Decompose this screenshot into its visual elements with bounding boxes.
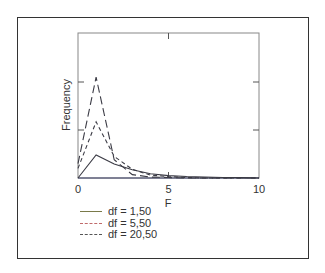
x-tick-10: 10 xyxy=(253,183,265,195)
legend: df = 1,50 df = 5,50 df = 20,50 xyxy=(80,206,157,241)
legend-dashed-line-icon xyxy=(80,223,102,224)
y-axis-label: Frequency xyxy=(60,79,72,131)
legend-label: df = 1,50 xyxy=(108,206,151,218)
x-tick-0: 0 xyxy=(75,183,81,195)
legend-long-dashed-line-icon xyxy=(80,234,102,235)
legend-item: df = 1,50 xyxy=(80,206,157,218)
series-line xyxy=(78,77,259,178)
series-line xyxy=(78,122,259,178)
x-axis-label: F xyxy=(165,197,172,209)
series-lines xyxy=(78,77,259,178)
chart-plot: 0 5 10 F Frequency xyxy=(0,0,325,273)
legend-item: df = 20,50 xyxy=(80,229,157,241)
axis-ticks xyxy=(78,33,259,178)
x-tick-5: 5 xyxy=(165,183,171,195)
legend-solid-line-icon xyxy=(80,211,102,212)
plot-area xyxy=(78,33,259,178)
legend-label: df = 20,50 xyxy=(108,229,157,241)
